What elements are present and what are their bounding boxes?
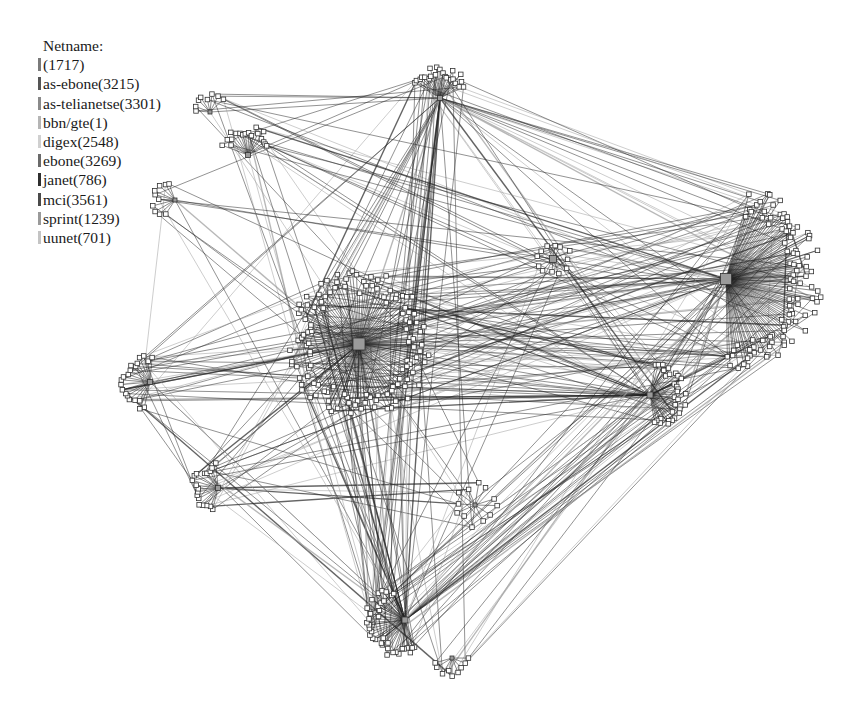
legend-swatch	[38, 77, 41, 90]
legend-item: as-telianetse(3301)	[38, 94, 161, 113]
graph-edges	[121, 67, 818, 676]
legend-swatch	[38, 154, 41, 167]
legend-swatch	[38, 116, 41, 129]
legend-label: uunet(701)	[43, 228, 111, 247]
legend-label: sprint(1239)	[43, 209, 120, 228]
netname-legend: Netname: (1717)as-ebone(3215)as-telianet…	[38, 36, 161, 247]
legend-item: as-ebone(3215)	[38, 74, 161, 93]
legend-swatch	[38, 231, 41, 244]
legend-label: janet(786)	[43, 170, 107, 189]
legend-label: as-ebone(3215)	[43, 74, 139, 93]
legend-item: sprint(1239)	[38, 209, 161, 228]
legend-item: mci(3561)	[38, 190, 161, 209]
legend-item: janet(786)	[38, 170, 161, 189]
legend-label: as-telianetse(3301)	[43, 94, 161, 113]
legend-swatch	[38, 212, 41, 225]
legend-swatch	[38, 58, 41, 71]
legend-label: bbn/gte(1)	[43, 113, 108, 132]
legend-item: bbn/gte(1)	[38, 113, 161, 132]
legend-label: (1717)	[43, 55, 84, 74]
legend-label: digex(2548)	[43, 132, 119, 151]
legend-title: Netname:	[38, 36, 161, 55]
legend-swatch	[38, 173, 41, 186]
legend-label: mci(3561)	[43, 190, 108, 209]
legend-item: (1717)	[38, 55, 161, 74]
legend-item: uunet(701)	[38, 228, 161, 247]
legend-swatch	[38, 193, 41, 206]
legend-swatch	[38, 97, 41, 110]
legend-swatch	[38, 135, 41, 148]
legend-item: digex(2548)	[38, 132, 161, 151]
legend-item: ebone(3269)	[38, 151, 161, 170]
legend-label: ebone(3269)	[43, 151, 121, 170]
